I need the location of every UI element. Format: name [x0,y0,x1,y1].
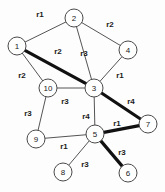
edge-label-2-3: r3 [80,49,88,58]
edge-label-3-5: r4 [82,112,90,121]
node-label-2: 2 [72,14,77,23]
node-6[interactable]: 6 [119,164,137,182]
node-label-7: 7 [146,120,151,129]
node-4[interactable]: 4 [119,41,137,59]
node-label-9: 9 [34,135,39,144]
edge-2-4 [82,23,121,46]
node-label-1: 1 [15,42,20,51]
edge-label-1-3: r2 [54,47,62,56]
edge-label-5-7: r1 [113,119,121,128]
node-label-4: 4 [126,46,131,55]
edge-label-5-8: r3 [81,160,89,169]
edge-label-4-3: r1 [116,71,124,80]
edge-1-2 [25,22,66,42]
nodes-layer: 12345678910 [8,9,157,182]
edge-9-10 [38,97,46,130]
edge-label-1-10: r2 [18,71,26,80]
edge-label-2-4: r2 [106,20,114,29]
edge-9-5 [45,135,86,138]
edge-label-9-5: r1 [60,142,68,151]
edge-label-3-10: r3 [61,97,69,106]
node-9[interactable]: 9 [27,130,45,148]
node-2[interactable]: 2 [65,9,83,27]
graph-canvas: 12345678910 r1r2r3r2r2r1r3r4r4r3r1r1r3r3 [0,0,165,192]
node-label-3: 3 [92,84,97,93]
node-8[interactable]: 8 [54,163,72,181]
node-5[interactable]: 5 [86,125,104,143]
edge-label-9-10: r3 [24,109,32,118]
edge-label-3-7: r4 [127,97,135,106]
graph-figure: 12345678910 r1r2r3r2r2r1r3r4r4r3r1r1r3r3 [0,0,165,192]
node-3[interactable]: 3 [85,79,103,97]
node-7[interactable]: 7 [139,115,157,133]
edge-3-5 [94,97,95,125]
edge-label-5-6: r3 [118,148,126,157]
node-label-10: 10 [44,84,53,93]
node-label-8: 8 [61,168,66,177]
node-1[interactable]: 1 [8,37,26,55]
node-10[interactable]: 10 [39,79,57,97]
edge-5-7 [104,126,139,133]
edge-label-1-2: r1 [36,10,44,19]
node-label-6: 6 [126,169,131,178]
node-label-5: 5 [93,130,98,139]
